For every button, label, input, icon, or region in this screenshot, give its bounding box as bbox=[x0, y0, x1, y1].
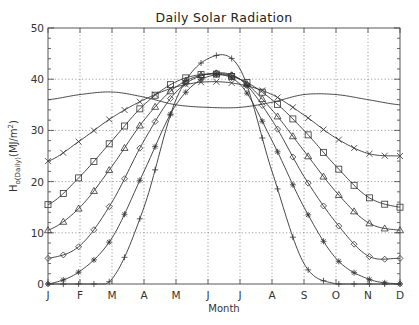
series-x bbox=[45, 79, 403, 164]
y-tick-label: 20 bbox=[31, 176, 44, 188]
x-tick-label: M bbox=[171, 289, 180, 301]
marker-x bbox=[290, 104, 296, 110]
y-tick-labels: 01020304050 bbox=[31, 22, 44, 290]
x-tick-label: S bbox=[301, 289, 308, 301]
data-series bbox=[45, 52, 404, 287]
marker-x bbox=[366, 151, 372, 157]
marker-x bbox=[76, 139, 82, 145]
y-tick-label: 40 bbox=[31, 73, 44, 85]
grid-lines bbox=[48, 28, 400, 284]
marker-asterisk bbox=[213, 72, 219, 78]
series-line bbox=[48, 55, 400, 284]
marker-x bbox=[351, 145, 357, 151]
series-line bbox=[48, 92, 400, 108]
y-tick-label: 30 bbox=[31, 124, 44, 136]
x-tick-labels: JFMAMJJASOND bbox=[45, 289, 404, 301]
marker-x bbox=[137, 99, 143, 105]
marker-asterisk bbox=[91, 257, 97, 263]
marker-x bbox=[60, 150, 66, 156]
x-tick-label: J bbox=[45, 289, 49, 301]
plot-frame bbox=[48, 28, 400, 284]
x-tick-label: D bbox=[396, 289, 404, 301]
marker-asterisk bbox=[305, 212, 311, 218]
y-tick-label: 0 bbox=[37, 278, 44, 290]
chart-title: Daily Solar Radiation bbox=[156, 10, 293, 25]
marker-asterisk bbox=[183, 89, 189, 95]
marker-plus bbox=[290, 234, 296, 240]
marker-asterisk bbox=[259, 118, 265, 124]
series-none bbox=[48, 92, 400, 108]
x-tick-label: F bbox=[77, 289, 83, 301]
marker-x bbox=[122, 107, 128, 113]
marker-plus bbox=[275, 186, 281, 192]
x-tick-label: J bbox=[237, 289, 241, 301]
marker-plus bbox=[152, 167, 158, 173]
y-tick-label: 10 bbox=[31, 227, 44, 239]
marker-asterisk bbox=[137, 177, 143, 183]
marker-asterisk bbox=[351, 270, 357, 276]
marker-asterisk bbox=[152, 144, 158, 150]
marker-x bbox=[305, 115, 311, 121]
x-tick-label: J bbox=[205, 289, 209, 301]
marker-asterisk bbox=[320, 238, 326, 244]
x-tick-label: N bbox=[364, 289, 372, 301]
marker-plus bbox=[122, 254, 128, 260]
marker-asterisk bbox=[106, 239, 112, 245]
solar-radiation-chart: Daily Solar Radiation JFMAMJJASOND 01020… bbox=[0, 0, 419, 325]
marker-plus bbox=[320, 278, 326, 284]
marker-asterisk bbox=[336, 258, 342, 264]
y-tick-label: 50 bbox=[31, 22, 44, 34]
marker-asterisk bbox=[275, 149, 281, 155]
y-axis-label: Ho(Daily)(MJ/m2) bbox=[7, 120, 22, 192]
series-line bbox=[48, 73, 400, 259]
x-tick-label: A bbox=[268, 289, 276, 301]
series-line bbox=[48, 75, 400, 284]
marker-x bbox=[336, 137, 342, 143]
marker-asterisk bbox=[198, 77, 204, 83]
x-tick-label: M bbox=[107, 289, 116, 301]
x-tick-label: A bbox=[140, 289, 148, 301]
series-diamond bbox=[45, 70, 403, 262]
marker-plus bbox=[259, 135, 265, 141]
marker-asterisk bbox=[76, 269, 82, 275]
marker-plus bbox=[213, 52, 219, 58]
axis-ticks bbox=[48, 28, 400, 284]
series-line bbox=[48, 82, 400, 161]
marker-plus bbox=[167, 112, 173, 118]
marker-plus bbox=[137, 216, 143, 222]
series-triangle bbox=[45, 70, 404, 233]
series-line bbox=[48, 73, 400, 230]
x-tick-label: O bbox=[332, 289, 340, 301]
series-asterisk bbox=[45, 72, 403, 287]
x-axis-label: Month bbox=[208, 303, 239, 314]
marker-x bbox=[106, 116, 112, 122]
marker-asterisk bbox=[122, 211, 128, 217]
series-line bbox=[48, 74, 400, 207]
marker-x bbox=[320, 127, 326, 133]
marker-asterisk bbox=[229, 75, 235, 81]
marker-asterisk bbox=[290, 182, 296, 188]
marker-x bbox=[275, 94, 281, 100]
series-plus bbox=[45, 52, 403, 287]
